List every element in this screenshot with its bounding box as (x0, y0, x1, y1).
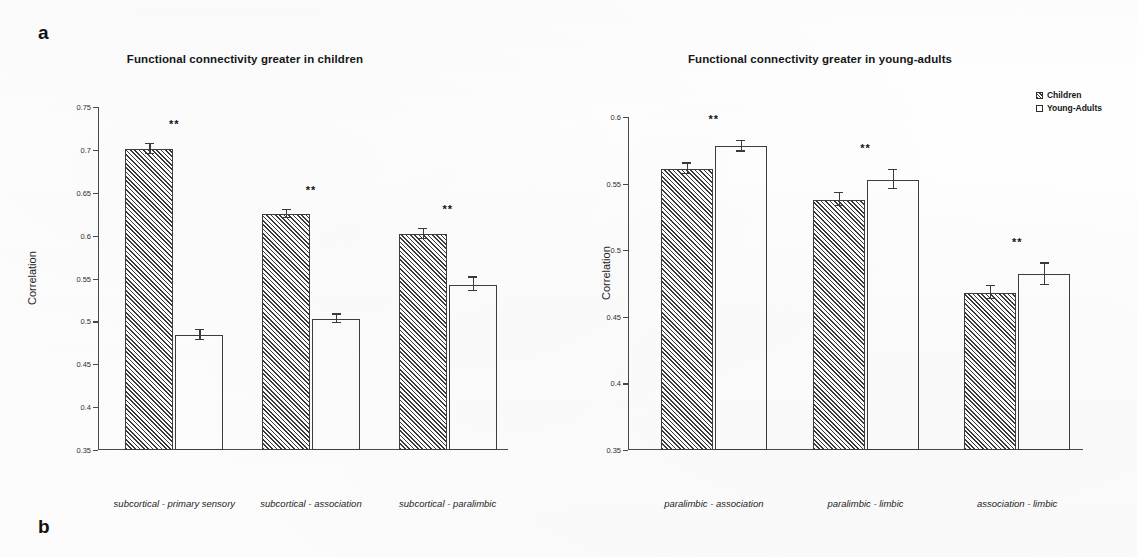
bar-children-2 (964, 293, 1016, 450)
error-cap-top (834, 192, 843, 193)
bar-young-adults-1 (312, 319, 360, 450)
y-tick-label: 0.4 (611, 379, 621, 388)
legend-swatch-hatched-icon (1036, 92, 1043, 99)
y-tick-label: 0.35 (606, 446, 621, 455)
y-axis-line-left (98, 107, 99, 450)
legend-item-children: Children (1036, 89, 1102, 102)
y-tick-label: 0.45 (76, 360, 91, 369)
significance-marker-1: ** (306, 184, 317, 196)
y-axis-title-left: Correlation (26, 251, 38, 305)
y-tick-mark (623, 250, 628, 251)
y-tick-label: 0.75 (76, 103, 91, 112)
bar-children-1 (813, 200, 865, 450)
error-cap-bottom (888, 188, 897, 189)
y-tick-mark (93, 236, 98, 237)
significance-marker-2: ** (442, 203, 453, 215)
x-category-label-2: association - limbic (977, 498, 1057, 509)
error-cap-top (418, 228, 427, 229)
error-cap-top (736, 140, 745, 141)
chart-children-greater: Functional connectivity greater in child… (30, 45, 530, 500)
y-tick-mark (93, 107, 98, 108)
y-tick-mark (623, 117, 628, 118)
error-bar (893, 170, 894, 189)
error-cap-top (282, 209, 291, 210)
bar-children-0 (661, 169, 713, 450)
error-cap-top (468, 276, 477, 277)
y-tick-mark (93, 321, 98, 322)
legend-swatch-empty-icon (1036, 105, 1043, 112)
bar-young-adults-0 (715, 146, 767, 450)
y-tick-mark (93, 364, 98, 365)
y-tick-label: 0.65 (76, 188, 91, 197)
y-axis-line-right (628, 117, 629, 450)
error-cap-bottom (468, 290, 477, 291)
significance-marker-0: ** (709, 113, 720, 125)
error-cap-bottom (332, 322, 341, 323)
error-cap-bottom (145, 153, 154, 154)
legend-label-children: Children (1047, 89, 1081, 102)
y-tick-mark (93, 407, 98, 408)
y-tick-label: 0.5 (81, 317, 91, 326)
y-tick-mark (623, 383, 628, 384)
y-tick-label: 0.7 (81, 145, 91, 154)
error-cap-bottom (418, 238, 427, 239)
error-cap-bottom (282, 217, 291, 218)
legend-item-young-adults: Young-Adults (1036, 102, 1102, 115)
error-cap-top (986, 285, 995, 286)
y-tick-mark (93, 450, 98, 451)
error-cap-top (682, 162, 691, 163)
panel-label-a: a (38, 22, 49, 44)
chart-title-right: Functional connectivity greater in young… (580, 53, 1060, 65)
bar-children-2 (399, 234, 447, 450)
error-cap-top (332, 313, 341, 314)
error-cap-bottom (736, 150, 745, 151)
y-axis-title-right: Correlation (600, 246, 612, 300)
chart-legend: Children Young-Adults (1036, 89, 1102, 115)
legend-label-young-adults: Young-Adults (1047, 102, 1102, 115)
x-category-label-2: subcortical - paralimbic (399, 498, 496, 509)
y-tick-mark (93, 150, 98, 151)
x-category-label-1: subcortical - association (260, 498, 361, 509)
panel-label-b: b (38, 516, 50, 538)
y-tick-mark (93, 279, 98, 280)
bar-children-1 (262, 214, 310, 450)
y-tick-mark (623, 317, 628, 318)
error-cap-bottom (1040, 284, 1049, 285)
y-tick-label: 0.4 (81, 403, 91, 412)
error-cap-bottom (195, 339, 204, 340)
error-cap-bottom (682, 173, 691, 174)
bar-young-adults-2 (1018, 274, 1070, 450)
bar-children-0 (125, 149, 173, 450)
bar-young-adults-1 (867, 180, 919, 450)
error-cap-bottom (986, 298, 995, 299)
x-category-label-0: subcortical - primary sensory (114, 498, 235, 509)
error-cap-top (888, 169, 897, 170)
bar-young-adults-0 (175, 335, 223, 450)
y-tick-label: 0.5 (611, 246, 621, 255)
significance-marker-1: ** (860, 142, 871, 154)
x-category-label-0: paralimbic - association (664, 498, 763, 509)
y-tick-label: 0.45 (606, 312, 621, 321)
significance-marker-0: ** (169, 118, 180, 130)
y-tick-label: 0.6 (611, 113, 621, 122)
x-category-label-1: paralimbic - limbic (827, 498, 903, 509)
significance-marker-2: ** (1012, 236, 1023, 248)
y-tick-mark (623, 184, 628, 185)
chart-young-adults-greater: Functional connectivity greater in young… (580, 45, 1110, 500)
y-tick-label: 0.55 (76, 274, 91, 283)
y-tick-label: 0.35 (76, 446, 91, 455)
error-cap-bottom (834, 205, 843, 206)
error-cap-top (1040, 262, 1049, 263)
bar-young-adults-2 (449, 285, 497, 450)
plot-area-left: 0.350.40.450.50.550.60.650.70.75**subcor… (98, 107, 508, 450)
error-cap-top (145, 143, 154, 144)
plot-area-right: 0.350.40.450.50.550.6**paralimbic - asso… (628, 117, 1083, 450)
y-tick-label: 0.55 (606, 179, 621, 188)
y-tick-mark (623, 450, 628, 451)
error-cap-top (195, 329, 204, 330)
y-tick-label: 0.6 (81, 231, 91, 240)
y-tick-mark (93, 193, 98, 194)
error-bar (1044, 264, 1045, 285)
chart-title-left: Functional connectivity greater in child… (30, 53, 460, 65)
